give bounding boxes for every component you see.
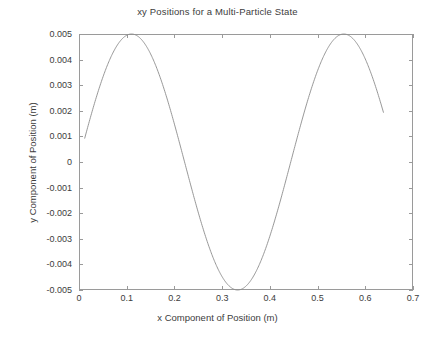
- plot-area: [0, 0, 435, 338]
- chart-figure: xy Positions for a Multi-Particle State …: [0, 0, 435, 338]
- plot-frame: [80, 35, 413, 290]
